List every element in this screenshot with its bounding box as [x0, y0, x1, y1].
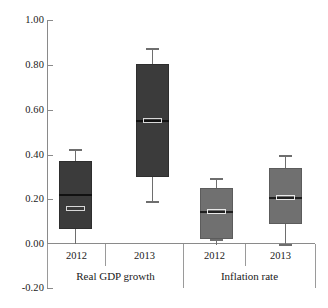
plot-area: 1.00 0.80 0.60 0.40 0.20 0.00 -0.20 [0, 0, 328, 308]
mean-marker [66, 206, 85, 211]
y-tick-label-0-20: 0.20 [2, 193, 44, 204]
y-tick-label-1-00: 1.00 [2, 14, 44, 25]
y-tick-mark-1-00 [47, 20, 53, 21]
cat-label-inflation-2012: 2012 [184, 250, 245, 261]
cat-separator-right-edge [315, 244, 316, 288]
mean-marker [207, 209, 226, 214]
group-label-inflation: Inflation rate [184, 270, 315, 282]
y-tick-label-0-60: 0.60 [2, 104, 44, 115]
whisker-cap-upper [279, 155, 292, 157]
y-tick-label-0-00: 0.00 [2, 238, 44, 249]
whisker-cap-upper [210, 178, 223, 180]
whisker-cap-upper [146, 48, 159, 50]
mean-marker [143, 118, 162, 123]
y-tick-label-0-40: 0.40 [2, 149, 44, 160]
whisker-cap-upper [69, 149, 82, 151]
whisker-stem-lower [285, 224, 286, 245]
y-tick-mark-0-40 [47, 155, 53, 156]
y-tick-mark-0-20 [47, 199, 53, 200]
mean-marker [276, 195, 295, 200]
y-tick-label-0-80: 0.80 [2, 59, 44, 70]
y-tick-mark--0-20 [47, 288, 53, 289]
whisker-stem-lower [152, 177, 153, 202]
whisker-stem-upper [152, 48, 153, 65]
whisker-stem-lower [75, 229, 76, 244]
group-label-gdp: Real GDP growth [48, 270, 183, 282]
whisker-cap-lower [146, 201, 159, 203]
median-line [59, 194, 92, 196]
whisker-stem-upper [285, 155, 286, 169]
cat-label-gdp-2012: 2012 [48, 250, 105, 261]
boxplot-figure: 1.00 0.80 0.60 0.40 0.20 0.00 -0.20 [0, 0, 328, 308]
cat-label-inflation-2013: 2013 [246, 250, 315, 261]
whisker-cap-lower [210, 239, 223, 241]
y-tick-label--0-20: -0.20 [2, 282, 44, 293]
whisker-cap-lower [279, 244, 292, 246]
y-tick-mark-0-80 [47, 65, 53, 66]
zero-baseline [47, 243, 315, 244]
cat-label-gdp-2013: 2013 [106, 250, 183, 261]
y-tick-mark-0-60 [47, 110, 53, 111]
